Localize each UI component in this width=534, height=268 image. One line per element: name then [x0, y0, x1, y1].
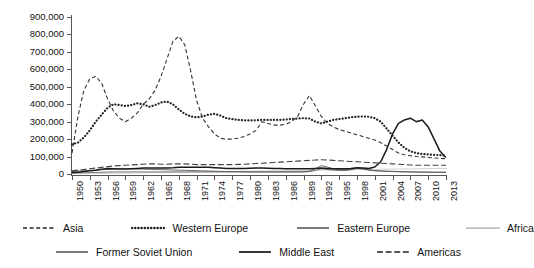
x-axis-tick [161, 176, 162, 180]
y-axis-tick [67, 69, 72, 70]
x-axis-tick-label: 1983 [272, 181, 281, 201]
legend-item-africa[interactable]: Africa [466, 222, 534, 234]
x-axis-tick [232, 176, 233, 180]
legend-label: Eastern Europe [337, 222, 410, 234]
legend-swatch-long-dashed-icon [376, 247, 410, 257]
x-axis-tick-label: 1953 [94, 181, 103, 201]
y-axis-tick [67, 52, 72, 53]
y-axis-tick [67, 87, 72, 88]
x-axis-tick [90, 176, 91, 180]
x-axis-tick-label: 1968 [183, 181, 192, 201]
legend-swatch-solid-thin-icon [55, 247, 89, 257]
legend-item-americas[interactable]: Americas [376, 246, 461, 258]
y-axis-tick-label: 0 [0, 169, 64, 179]
series-line-americas [72, 160, 446, 171]
x-axis-tick [321, 176, 322, 180]
y-axis-tick [67, 122, 72, 123]
legend-item-eastern-europe[interactable]: Eastern Europe [296, 222, 410, 234]
x-axis-tick-label: 1995 [343, 181, 352, 201]
legend-swatch-dashed-icon [22, 223, 56, 233]
series-line-africa [72, 168, 446, 173]
x-axis-tick-label: 1962 [147, 181, 156, 201]
y-axis-tick-label: 200,000 [0, 134, 64, 144]
legend-label: Africa [507, 222, 534, 234]
x-axis-tick-label: 2001 [379, 181, 388, 201]
legend-row-1: AsiaWestern EuropeEastern EuropeAfrica [0, 216, 470, 240]
x-axis-tick [339, 176, 340, 180]
y-axis-tick-label: 600,000 [0, 64, 64, 74]
x-axis-tick-label: 1989 [308, 181, 317, 201]
x-axis-tick [304, 176, 305, 180]
y-axis-tick-label: 700,000 [0, 47, 64, 57]
x-axis-tick [214, 176, 215, 180]
x-axis-tick-label: 1959 [129, 181, 138, 201]
chart-legend: AsiaWestern EuropeEastern EuropeAfrica F… [0, 212, 470, 268]
x-axis-tick [197, 176, 198, 180]
legend-item-former-soviet-union[interactable]: Former Soviet Union [55, 246, 192, 258]
y-axis-tick [67, 17, 72, 18]
legend-label: Americas [417, 246, 461, 258]
y-axis-tick [67, 174, 72, 175]
legend-row-2: Former Soviet UnionMiddle EastAmericas [0, 240, 470, 264]
legend-label: Western Europe [172, 222, 248, 234]
x-axis-tick-label: 1965 [165, 181, 174, 201]
series-line-asia [72, 36, 446, 158]
legend-item-asia[interactable]: Asia [22, 222, 83, 234]
legend-swatch-dotted-icon [131, 223, 165, 233]
legend-swatch-solid-thick-icon [238, 247, 272, 257]
x-axis-tick [143, 176, 144, 180]
x-axis-line [71, 175, 447, 176]
y-axis-tick-label: 900,000 [0, 12, 64, 22]
y-axis-tick [67, 104, 72, 105]
x-axis-tick-label: 2013 [450, 181, 459, 201]
x-axis-tick [250, 176, 251, 180]
legend-swatch-fine-dotted-icon [466, 223, 500, 233]
series-line-middle-east [72, 118, 446, 172]
x-axis-tick-label: 1980 [254, 181, 263, 201]
x-axis-tick [125, 176, 126, 180]
legend-item-middle-east[interactable]: Middle East [238, 246, 334, 258]
x-axis-tick [179, 176, 180, 180]
y-axis-tick [67, 34, 72, 35]
x-axis-tick-label: 1956 [112, 181, 121, 201]
x-axis-tick [357, 176, 358, 180]
x-axis-tick [286, 176, 287, 180]
x-axis-tick [375, 176, 376, 180]
series-line-western-europe [72, 102, 446, 156]
legend-item-western-europe[interactable]: Western Europe [131, 222, 248, 234]
legend-label: Asia [63, 222, 83, 234]
legend-swatch-solid-thin-icon [296, 223, 330, 233]
x-axis-tick [428, 176, 429, 180]
y-axis-tick-label: 800,000 [0, 29, 64, 39]
series-line-eastern-europe [72, 166, 446, 173]
x-axis-tick-label: 1971 [201, 181, 210, 201]
x-axis-tick [446, 176, 447, 180]
x-axis-tick-label: 2010 [432, 181, 441, 201]
legend-label: Former Soviet Union [96, 246, 192, 258]
x-axis-tick-label: 2004 [397, 181, 406, 201]
x-axis-tick [393, 176, 394, 180]
x-axis-tick-label: 1974 [218, 181, 227, 201]
y-axis-tick-label: 100,000 [0, 152, 64, 162]
x-axis-tick-label: 2007 [414, 181, 423, 201]
x-axis-tick [72, 176, 73, 180]
x-axis-tick-label: 1992 [325, 181, 334, 201]
series-line-former-soviet-union [72, 168, 446, 173]
x-axis-tick [268, 176, 269, 180]
x-axis-tick-label: 1998 [361, 181, 370, 201]
y-axis-tick-label: 300,000 [0, 117, 64, 127]
legend-label: Middle East [279, 246, 334, 258]
y-axis-tick-label: 400,000 [0, 99, 64, 109]
y-axis-tick [67, 139, 72, 140]
x-axis-tick-label: 1977 [236, 181, 245, 201]
y-axis-tick-label: 500,000 [0, 82, 64, 92]
y-axis-line [71, 15, 72, 176]
x-axis-tick [410, 176, 411, 180]
x-axis-tick-label: 1986 [290, 181, 299, 201]
x-axis-tick-label: 1950 [76, 181, 85, 201]
y-axis-tick [67, 157, 72, 158]
x-axis-tick [108, 176, 109, 180]
